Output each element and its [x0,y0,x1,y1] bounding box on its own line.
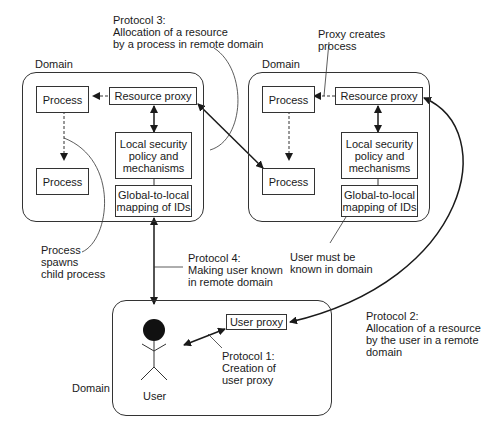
annotation-line: Creation of [222,362,276,374]
process-label: Process [269,176,309,188]
right-domain-label: Domain [262,58,300,70]
annotation-line: by the user in a remote [366,334,481,346]
user-domain-label: Domain [72,382,110,394]
process-label: Process [43,176,83,188]
annotation-line: Protocol 4: [188,252,283,264]
mapping-line: Global-to-local [344,189,415,201]
security-line: policy and [355,150,405,162]
process-label: Process [269,94,309,106]
left-security-box: Local security policy and mechanisms [115,132,192,179]
user-known-annotation: User must be known in domain [290,251,373,275]
left-process-box: Process [36,86,89,113]
annotation-line: Process [41,244,105,256]
user-proxy-box: User proxy [226,314,287,330]
mapping-line: Global-to-local [118,189,189,201]
annotation-line: Protocol 3: [113,14,263,26]
annotation-line: User must be [290,251,373,263]
annotation-line: known in domain [290,263,373,275]
annotation-line: Making user known [188,264,283,276]
mapping-line: mapping of IDs [117,201,191,213]
annotation-line: domain [366,346,481,358]
left-child-process-box: Process [36,168,89,195]
annotation-line: Allocation of a resource [113,26,263,38]
annotation-line: Proxy creates [318,28,385,40]
security-line: mechanisms [123,162,185,174]
right-child-process-box: Process [262,168,315,195]
process-label: Process [43,94,83,106]
protocol2-annotation: Protocol 2: Allocation of a resource by … [366,310,481,358]
security-line: policy and [129,150,179,162]
resource-proxy-label: Resource proxy [340,90,417,102]
mapping-line: mapping of IDs [343,201,417,213]
left-mapping-box: Global-to-local mapping of IDs [115,185,192,217]
annotation-line: in remote domain [188,276,283,288]
annotation-line: user proxy [222,374,276,386]
annotation-line: process [318,40,385,52]
annotation-line: child process [41,268,105,280]
left-domain-label: Domain [35,58,73,70]
right-resource-proxy-box: Resource proxy [335,87,423,105]
annotation-line: Allocation of a resource [366,322,481,334]
annotation-line: Protocol 1: [222,350,276,362]
right-security-box: Local security policy and mechanisms [341,132,418,179]
user-proxy-label: User proxy [230,316,283,328]
protocol3-annotation: Protocol 3: Allocation of a resource by … [113,14,263,50]
spawns-annotation: Process spawns child process [41,244,105,280]
right-mapping-box: Global-to-local mapping of IDs [341,185,418,217]
security-line: mechanisms [349,162,411,174]
protocol1-annotation: Protocol 1: Creation of user proxy [222,350,276,386]
right-process-box: Process [262,86,315,113]
resource-proxy-label: Resource proxy [114,90,191,102]
security-line: Local security [120,138,187,150]
annotation-line: Protocol 2: [366,310,481,322]
protocol4-annotation: Protocol 4: Making user known in remote … [188,252,283,288]
security-line: Local security [346,138,413,150]
proxy-creates-annotation: Proxy creates process [318,28,385,52]
user-label: User [143,390,166,402]
annotation-line: by a process in remote domain [113,38,263,50]
annotation-line: spawns [41,256,105,268]
left-resource-proxy-box: Resource proxy [109,87,197,105]
